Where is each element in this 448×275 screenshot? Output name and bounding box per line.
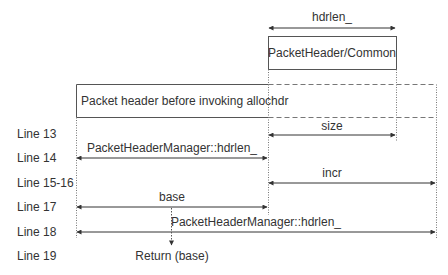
incr-label: incr bbox=[322, 166, 341, 180]
line-label-13: Line 13 bbox=[17, 127, 57, 141]
hdrlen-top-label: hdrlen_ bbox=[312, 10, 352, 24]
line18-hdrlen-label: PacketHeaderManager::hdrlen_ bbox=[171, 215, 341, 229]
packetheader-common-label: PacketHeader/Common bbox=[268, 46, 396, 60]
line-label-14: Line 14 bbox=[17, 151, 57, 165]
line-label-15-16: Line 15-16 bbox=[17, 176, 74, 190]
packet-header-before-label: Packet header before invoking allochdr bbox=[81, 94, 288, 108]
allochdr-diagram: hdrlen_ PacketHeader/Common Packet heade… bbox=[0, 0, 448, 275]
size-arrow: size bbox=[269, 119, 395, 135]
packetheader-common-box: PacketHeader/Common bbox=[268, 37, 397, 70]
base-label: base bbox=[159, 190, 185, 204]
line-label-19: Line 19 bbox=[17, 249, 57, 263]
size-label: size bbox=[321, 119, 343, 133]
line18-hdrlen-arrow: PacketHeaderManager::hdrlen_ bbox=[77, 215, 435, 232]
line-label-17: Line 17 bbox=[17, 200, 57, 214]
base-arrow: base bbox=[77, 190, 267, 207]
return-base-label: Return (base) bbox=[135, 249, 208, 263]
packet-header-before-box: Packet header before invoking allochdr bbox=[77, 85, 437, 118]
line14-hdrlen-arrow: PacketHeaderManager::hdrlen_ bbox=[77, 141, 267, 158]
line-label-18: Line 18 bbox=[17, 225, 57, 239]
line-labels: Line 13 Line 14 Line 15-16 Line 17 Line … bbox=[17, 127, 74, 263]
line14-hdrlen-label: PacketHeaderManager::hdrlen_ bbox=[87, 141, 257, 155]
incr-arrow: incr bbox=[269, 166, 435, 183]
hdrlen-top-arrow: hdrlen_ bbox=[269, 10, 395, 28]
